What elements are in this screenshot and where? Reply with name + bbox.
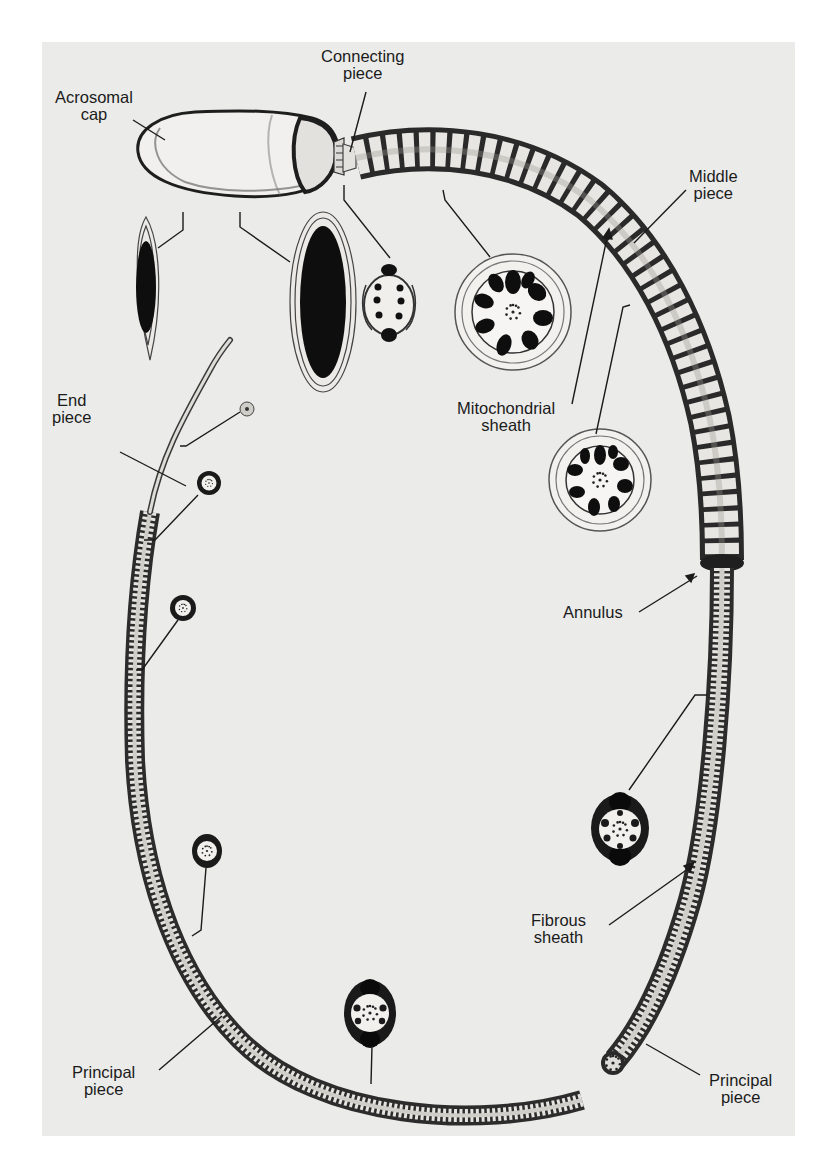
sperm-head xyxy=(138,111,356,197)
cross-section-head-tip xyxy=(136,217,159,360)
cross-section-principal-distal-2 xyxy=(197,471,221,495)
cross-section-middle-2 xyxy=(549,429,651,531)
label-acrosomal-cap: Acrosomal cap xyxy=(55,89,133,123)
cross-section-neck xyxy=(363,264,416,342)
label-mitochondrial-sheath: Mitochondrial sheath xyxy=(457,400,555,434)
cross-section-principal-left xyxy=(192,834,222,868)
label-end-piece: End piece xyxy=(52,392,91,426)
label-connecting-piece: Connecting piece xyxy=(321,48,404,82)
label-fibrous-sheath: Fibrous sheath xyxy=(531,912,586,946)
label-annulus: Annulus xyxy=(563,604,623,621)
cross-section-middle-1 xyxy=(455,254,571,370)
principal-piece-cut-end xyxy=(601,1051,625,1075)
cross-section-end xyxy=(240,402,254,416)
cross-section-principal-distal-1 xyxy=(170,595,196,621)
cross-section-principal-bottom xyxy=(344,979,396,1048)
cross-section-principal-right xyxy=(591,792,649,866)
label-principal-piece-right: Principal piece xyxy=(709,1072,772,1106)
label-middle-piece: Middle piece xyxy=(689,168,738,202)
label-principal-piece-left: Principal piece xyxy=(72,1064,135,1098)
cross-section-head-nucleus xyxy=(290,212,356,392)
